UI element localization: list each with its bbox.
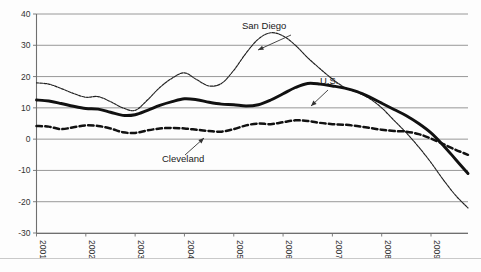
y-tick-label-10: 10 — [21, 103, 31, 113]
x-tick-label-2001: 2001 — [38, 240, 48, 259]
x-tick-label-2002: 2002 — [87, 240, 97, 259]
annotation-us-label: U.S. — [320, 75, 338, 86]
y-tick-label-20: 20 — [21, 72, 31, 82]
line-chart: 403020100-10-20-30 200120022003200420052… — [0, 0, 481, 272]
x-tick-label-2006: 2006 — [284, 240, 294, 259]
x-tick-label-2008: 2008 — [383, 240, 393, 259]
annotation-cleveland-label: Cleveland — [162, 153, 204, 164]
x-tick-label-2004: 2004 — [186, 240, 196, 259]
y-tick-label-0: 0 — [26, 134, 31, 144]
y-tick-label--30: -30 — [18, 228, 31, 238]
x-tick-label-2007: 2007 — [334, 240, 344, 259]
x-tick-label-2009: 2009 — [432, 240, 442, 259]
y-tick-label-40: 40 — [21, 9, 31, 19]
y-tick-label-30: 30 — [21, 40, 31, 50]
chart-canvas: 403020100-10-20-30 200120022003200420052… — [0, 0, 481, 272]
x-tick-label-2005: 2005 — [235, 240, 245, 259]
y-tick-label--20: -20 — [18, 197, 31, 207]
annotation-san-diego-label: San Diego — [242, 20, 286, 31]
y-tick-label--10: -10 — [18, 165, 31, 175]
x-tick-label-2003: 2003 — [136, 240, 146, 259]
